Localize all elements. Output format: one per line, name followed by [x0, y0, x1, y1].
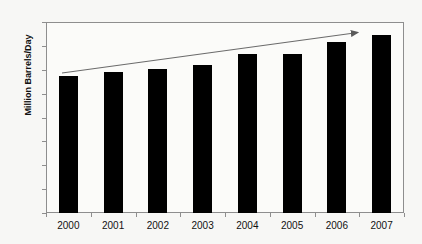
y-axis-tick-mark [42, 165, 46, 166]
bar [104, 72, 123, 213]
y-axis-tick-mark [42, 141, 46, 142]
bar [372, 35, 391, 213]
x-axis-tick-mark [404, 213, 405, 217]
bar [193, 65, 212, 213]
bar-chart: Million Barrels/Day 4035302520151050 200… [0, 0, 422, 244]
x-axis-tick-label: 2000 [48, 220, 88, 231]
bar [59, 76, 78, 213]
bar [148, 69, 167, 213]
x-axis-tick-mark [180, 213, 181, 217]
y-axis-tick-mark [42, 189, 46, 190]
plot-area [46, 22, 404, 213]
x-axis-tick-mark [315, 213, 316, 217]
x-axis-tick-label: 2004 [227, 220, 267, 231]
x-axis-tick-label: 2002 [138, 220, 178, 231]
bar [283, 54, 302, 213]
y-axis-title: Million Barrels/Day [23, 0, 33, 150]
x-axis-tick-mark [359, 213, 360, 217]
x-axis-tick-label: 2003 [183, 220, 223, 231]
x-axis-tick-mark [136, 213, 137, 217]
y-axis-tick-mark [42, 22, 46, 23]
x-axis-tick-mark [270, 213, 271, 217]
x-axis-tick-label: 2005 [272, 220, 312, 231]
x-axis-tick-mark [91, 213, 92, 217]
x-axis-tick-label: 2006 [317, 220, 357, 231]
y-axis-tick-mark [42, 46, 46, 47]
x-axis-tick-mark [225, 213, 226, 217]
x-axis-tick-mark [46, 213, 47, 217]
bar [327, 42, 346, 213]
x-axis-tick-label: 2007 [362, 220, 402, 231]
y-axis-tick-mark [42, 70, 46, 71]
x-axis-tick-label: 2001 [93, 220, 133, 231]
bar [238, 54, 257, 213]
y-axis-tick-mark [42, 94, 46, 95]
y-axis-tick-mark [42, 118, 46, 119]
